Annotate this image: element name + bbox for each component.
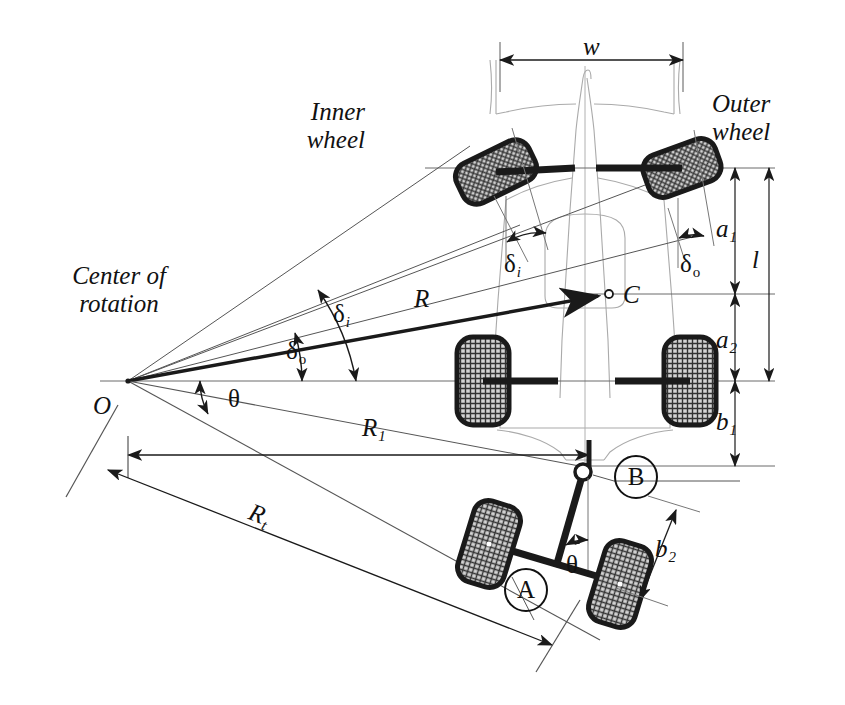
label-delta-i-center: δi (333, 300, 349, 327)
center-of-rotation-line2: rotation (79, 290, 159, 317)
inner-wheel-line2: wheel (307, 126, 365, 153)
trailer-wheel-right-hub (617, 581, 622, 586)
diagram-canvas: Inner wheel Outer wheel Center of rotati… (0, 0, 845, 705)
outer-wheel-line1: Outer (712, 90, 770, 117)
label-theta-trailer: θ (566, 551, 578, 578)
outer-wheel-label: Outer wheel (712, 90, 832, 146)
label-a2: a2 (716, 326, 736, 353)
label-l: l (752, 246, 759, 273)
angle-arc-theta-center (200, 381, 208, 414)
label-b1: b1 (716, 408, 736, 435)
trailer-wheel-left-hub (486, 541, 491, 546)
label-theta-center: θ (228, 385, 240, 412)
front-axle-left (496, 168, 575, 172)
label-C: C (623, 281, 640, 308)
angle-arc-theta-trailer (566, 540, 588, 545)
point-C-marker (605, 290, 613, 298)
Rt-right-tick (536, 600, 580, 672)
center-of-rotation-label: Center of rotation (14, 262, 224, 318)
label-R1: R1 (362, 414, 385, 441)
marker-B: B (614, 455, 658, 499)
marker-A: A (504, 568, 548, 612)
outer-wheel-line2: wheel (712, 118, 770, 145)
vertical-reference-lines (506, 196, 678, 268)
inner-wheel-label: Inner wheel (245, 98, 365, 154)
leader-line-B2 (593, 475, 614, 481)
label-delta-i-front: δi (504, 250, 520, 277)
hitch-point-B-marker (575, 464, 591, 480)
label-delta-o-center: δo (286, 337, 305, 364)
label-b2: b2 (655, 535, 675, 562)
center-of-rotation-point (125, 378, 130, 383)
label-a1: a1 (716, 215, 736, 242)
label-delta-o-front: δo (680, 250, 699, 277)
center-of-rotation-line1: Center of (72, 262, 166, 289)
inner-wheel-line1: Inner (311, 98, 365, 125)
label-O: O (93, 392, 111, 419)
angle-arc-delta-i-front (507, 233, 546, 242)
label-R: R (414, 285, 429, 312)
label-w: w (583, 33, 600, 60)
